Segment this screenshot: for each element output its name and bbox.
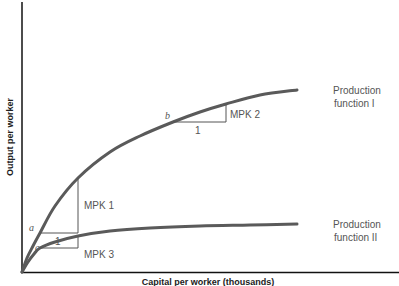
run-label-a: 1 [55,236,61,247]
point-c-label: c [35,242,40,253]
pf2-label-line1: Production [333,219,381,230]
pf1-label-line2: function I [334,98,375,109]
pf2-label-line2: function II [334,232,377,243]
y-axis-title: Output per worker [5,98,15,177]
mpk1-label: MPK 1 [84,200,114,211]
run-label-b: 1 [195,125,201,136]
point-a-label: a [29,222,34,233]
mpk2-label: MPK 2 [230,109,260,120]
x-axis-title: Capital per worker (thousands) [142,277,275,286]
pf1-label-line1: Production [333,85,381,96]
mpk3-label: MPK 3 [84,249,114,260]
point-b-label: b [165,110,170,121]
production-function-diagram: a b c 1 1 MPK 1 MPK 2 MPK 3 Production f… [0,0,399,286]
